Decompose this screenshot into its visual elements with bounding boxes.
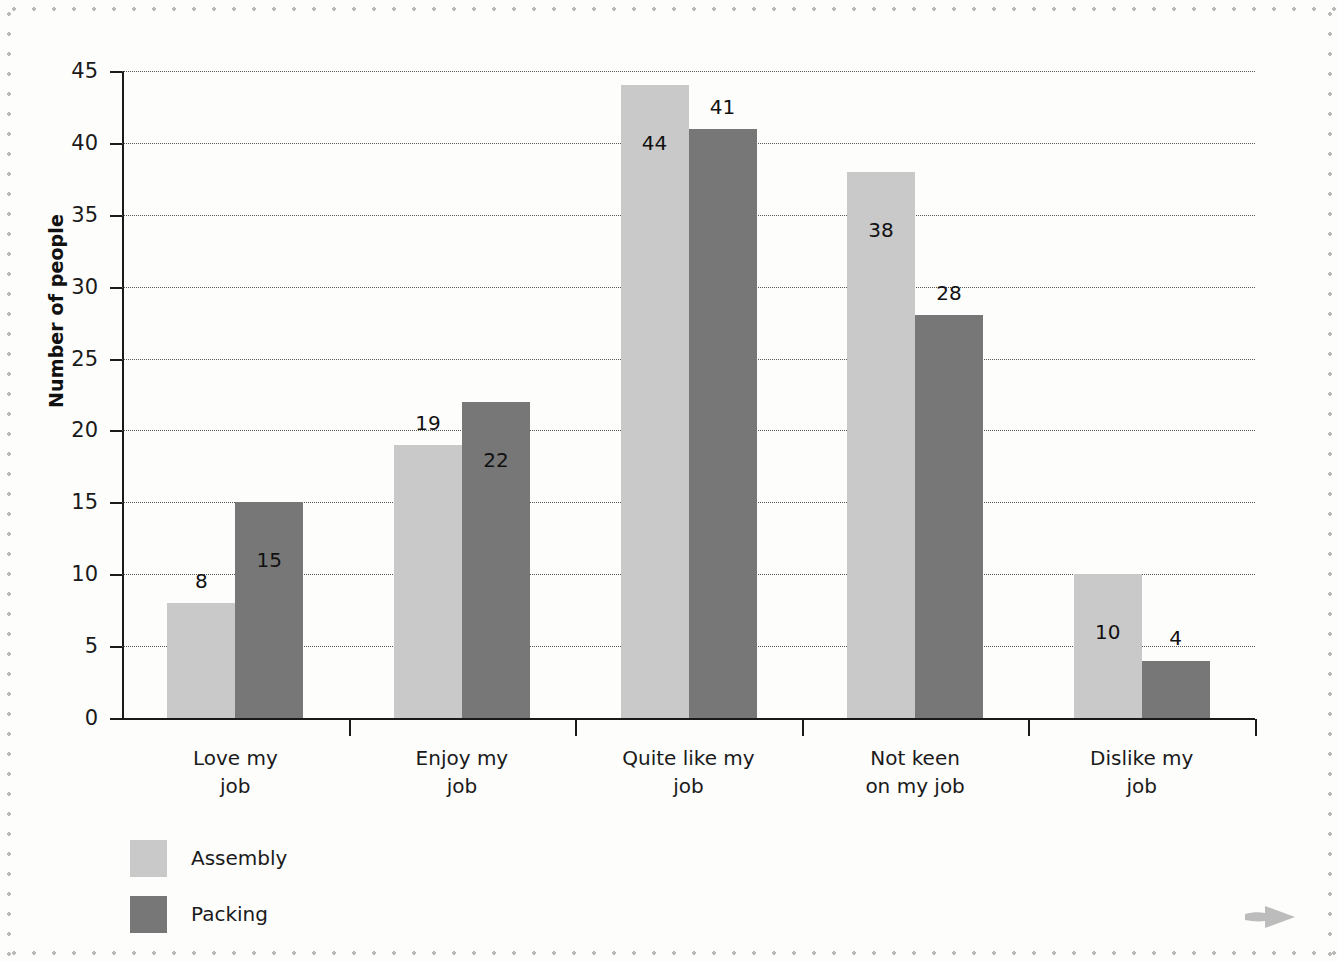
bar-value-label: 28: [915, 281, 983, 305]
x-axis-tick: [575, 719, 577, 736]
x-axis-category-label: Enjoy my job: [349, 745, 576, 800]
bar-assembly-2: [621, 85, 689, 718]
bar-value-label: 4: [1142, 626, 1210, 650]
y-axis-tick-label: 20: [36, 418, 98, 442]
x-axis-category-label: Love my job: [122, 745, 349, 800]
y-axis-tick-label: 5: [36, 634, 98, 658]
y-axis-tick-label: 25: [36, 347, 98, 371]
right-arrow-icon: [1239, 900, 1301, 934]
bar-assembly-0: [167, 603, 235, 718]
bar-value-label: 41: [689, 95, 757, 119]
y-axis-tick-label: 0: [36, 706, 98, 730]
x-axis-category-label: Dislike my job: [1028, 745, 1255, 800]
grouped-bar-chart: Number of people 051015202530354045 8151…: [0, 0, 1339, 962]
bar-packing-0: [235, 502, 303, 718]
chart-legend: AssemblyPacking: [130, 836, 287, 948]
x-axis-category-label: Not keen on my job: [802, 745, 1029, 800]
gridline: [122, 718, 1255, 720]
bar-packing-3: [915, 315, 983, 718]
legend-label: Assembly: [191, 846, 287, 870]
x-axis-tick: [1255, 719, 1257, 736]
legend-swatch-packing: [130, 896, 167, 933]
bar-value-label: 15: [235, 548, 303, 572]
legend-item-packing: Packing: [130, 892, 287, 936]
bar-packing-2: [689, 129, 757, 718]
gridline: [122, 71, 1255, 72]
y-axis-tick-label: 10: [36, 562, 98, 586]
bar-value-label: 38: [847, 218, 915, 242]
x-axis-tick: [349, 719, 351, 736]
bar-assembly-3: [847, 172, 915, 718]
x-axis-tick: [802, 719, 804, 736]
y-axis-tick-label: 30: [36, 275, 98, 299]
legend-item-assembly: Assembly: [130, 836, 287, 880]
x-axis-tick: [1028, 719, 1030, 736]
bar-assembly-1: [394, 445, 462, 718]
y-axis-tick-label: 40: [36, 131, 98, 155]
legend-swatch-assembly: [130, 840, 167, 877]
bar-assembly-4: [1074, 574, 1142, 718]
y-axis-title: Number of people: [45, 211, 67, 411]
x-axis-category-label: Quite like my job: [575, 745, 802, 800]
legend-label: Packing: [191, 902, 268, 926]
bar-value-label: 19: [394, 411, 462, 435]
plot-area: 815192244413828104: [122, 71, 1255, 718]
bar-value-label: 22: [462, 448, 530, 472]
bar-packing-4: [1142, 661, 1210, 719]
bar-value-label: 44: [621, 131, 689, 155]
bar-value-label: 8: [167, 569, 235, 593]
bar-value-label: 10: [1074, 620, 1142, 644]
y-axis-tick-label: 35: [36, 203, 98, 227]
y-axis-tick-label: 15: [36, 490, 98, 514]
y-axis-tick-label: 45: [36, 59, 98, 83]
